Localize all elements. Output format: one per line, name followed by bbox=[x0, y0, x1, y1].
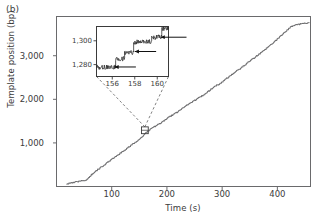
figure-panel-b: (b) Template position (bp) Time (s) 1,00… bbox=[0, 0, 315, 220]
zoom-leader-lines bbox=[97, 77, 169, 127]
main-plot-frame bbox=[57, 17, 311, 187]
plot-canvas bbox=[0, 0, 315, 220]
